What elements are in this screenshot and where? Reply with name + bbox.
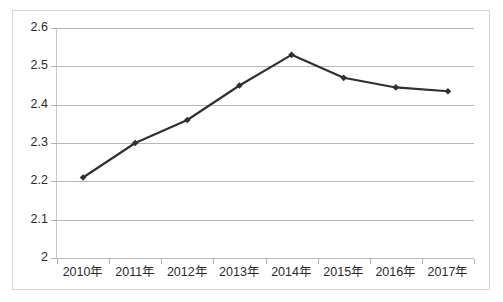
x-tick-mark xyxy=(422,259,423,264)
gridline xyxy=(57,105,474,106)
y-tick-mark xyxy=(51,220,57,221)
gridline xyxy=(57,220,474,221)
y-tick-mark xyxy=(51,105,57,106)
x-tick-mark xyxy=(161,259,162,264)
x-tick-label: 2015年 xyxy=(323,266,364,280)
x-tick-mark xyxy=(266,259,267,264)
chart-frame xyxy=(12,10,490,290)
x-tick-mark xyxy=(474,259,475,264)
x-tick-mark xyxy=(318,259,319,264)
x-tick-label: 2013年 xyxy=(219,266,260,280)
y-tick-mark xyxy=(51,66,57,67)
y-tick-label: 2.3 xyxy=(31,136,48,149)
gridline xyxy=(57,181,474,182)
x-tick-label: 2017年 xyxy=(428,266,469,280)
x-tick-mark xyxy=(109,259,110,264)
x-tick-label: 2016年 xyxy=(375,266,416,280)
x-tick-label: 2012年 xyxy=(167,266,208,280)
y-tick-mark xyxy=(51,181,57,182)
y-tick-mark xyxy=(51,143,57,144)
x-tick-label: 2014年 xyxy=(271,266,312,280)
y-tick-label: 2 xyxy=(41,251,48,264)
gridline xyxy=(57,66,474,67)
x-tick-label: 2011年 xyxy=(115,266,155,280)
x-tick-mark xyxy=(213,259,214,264)
y-tick-label: 2.5 xyxy=(31,59,48,72)
x-tick-label: 2010年 xyxy=(63,266,104,280)
y-tick-mark xyxy=(51,28,57,29)
y-tick-label: 2.2 xyxy=(31,174,48,187)
y-tick-label: 2.1 xyxy=(31,213,48,226)
gridline xyxy=(57,143,474,144)
y-axis-labels: 2.62.52.42.32.22.12 xyxy=(0,0,48,290)
y-tick-label: 2.6 xyxy=(31,21,48,34)
x-tick-mark xyxy=(57,259,58,264)
gridline xyxy=(57,28,474,29)
y-tick-label: 2.4 xyxy=(31,98,48,111)
x-tick-mark xyxy=(370,259,371,264)
